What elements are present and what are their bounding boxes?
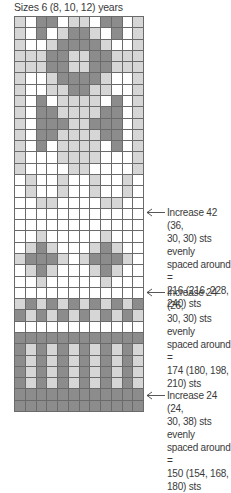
chart-cell [58,51,68,61]
chart-cell [15,152,25,162]
chart-cell [101,231,111,241]
chart-cell [80,175,90,185]
chart-cell [58,28,68,38]
chart-cell [58,130,68,140]
chart-cell [26,333,36,343]
chart-cell [112,322,122,332]
chart-cell [112,344,122,354]
chart-cell [101,85,111,95]
chart-cell [90,141,100,151]
chart-cell [69,85,79,95]
chart-cell [90,164,100,174]
chart-cell [58,220,68,230]
chart-cell [80,344,90,354]
chart-cell [80,40,90,50]
chart-cell [101,322,111,332]
chart-cell [47,107,57,117]
chart-cell [37,322,47,332]
chart-cell [123,85,133,95]
chart-cell [112,17,122,27]
chart-cell [123,141,133,151]
chart-cell [15,310,25,320]
chart-cell [80,277,90,287]
chart-cell [90,378,100,388]
annotation-line: spaced around = [146,338,231,364]
chart-cell [112,299,122,309]
chart-cell [133,96,143,106]
chart-cell [15,96,25,106]
annotation-line: 150 (154, 168, [146,467,231,480]
chart-cell [80,130,90,140]
chart-cell [133,85,143,95]
chart-cell [26,277,36,287]
chart-cell [15,231,25,241]
chart-cell [47,51,57,61]
chart-cell [26,265,36,275]
chart-cell [47,333,57,343]
chart-cell [69,164,79,174]
chart-cell [26,243,36,253]
chart-cell [47,175,57,185]
chart-cell [123,119,133,129]
chart-cell [112,152,122,162]
chart-cell [26,130,36,140]
chart-cell [69,288,79,298]
chart-cell [112,107,122,117]
chart-cell [133,62,143,72]
chart-cell [37,40,47,50]
chart-cell [90,344,100,354]
chart-cell [101,209,111,219]
chart-cell [133,119,143,129]
chart-cell [15,198,25,208]
chart-cell [112,198,122,208]
chart-cell [15,389,25,399]
chart-cell [15,186,25,196]
chart-cell [69,209,79,219]
chart-cell [90,322,100,332]
chart-cell [80,107,90,117]
chart-cell [123,17,133,27]
chart-cell [123,265,133,275]
chart-cell [80,73,90,83]
chart-cell [80,254,90,264]
chart-cell [90,107,100,117]
chart-cell [101,198,111,208]
chart-cell [101,141,111,151]
chart-cell [58,231,68,241]
chart-cell [69,333,79,343]
chart-cell [58,85,68,95]
chart-cell [101,333,111,343]
chart-cell [26,175,36,185]
chart-cell [123,367,133,377]
chart-cell [26,40,36,50]
chart-cell [58,378,68,388]
chart-cell [123,389,133,399]
chart-cell [101,164,111,174]
chart-cell [37,96,47,106]
chart-cell [112,243,122,253]
chart-cell [26,119,36,129]
chart-cell [69,243,79,253]
chart-cell [47,198,57,208]
chart-cell [101,310,111,320]
chart-cell [47,231,57,241]
chart-cell [112,40,122,50]
chart-cell [37,51,47,61]
chart-cell [69,152,79,162]
chart-cell [90,220,100,230]
chart-cell [101,175,111,185]
chart-cell [58,277,68,287]
chart-cell [133,164,143,174]
chart-cell [47,265,57,275]
chart-cell [123,344,133,354]
chart-cell [26,62,36,72]
chart-cell [80,85,90,95]
chart-cell [47,209,57,219]
chart-cell [80,96,90,106]
chart-cell [80,288,90,298]
chart-cell [58,288,68,298]
chart-cell [90,310,100,320]
chart-cell [58,299,68,309]
chart-cell [47,119,57,129]
chart-cell [69,299,79,309]
